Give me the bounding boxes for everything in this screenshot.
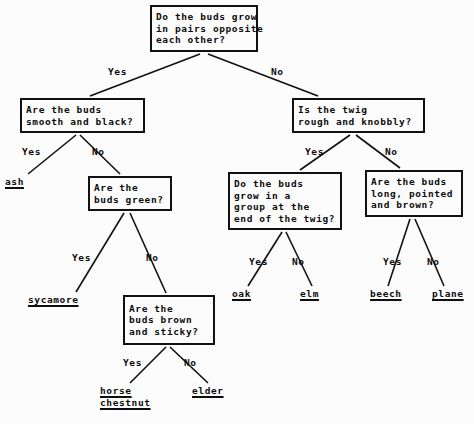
leaf_elm[interactable]: elm xyxy=(300,288,319,300)
lbl_smooth_no: No xyxy=(92,146,105,157)
node-q_group_end[interactable]: Do the budsgrow in agroup at theend of t… xyxy=(228,172,342,230)
lbl_group_yes: Yes xyxy=(249,256,268,267)
leaf_ash[interactable]: ash xyxy=(5,176,24,188)
node-q_buds_green[interactable]: Are thebuds green? xyxy=(88,176,172,211)
node-text-line: long, pointed xyxy=(371,188,457,200)
lbl_root_yes: Yes xyxy=(108,66,127,77)
node-text-line: each other? xyxy=(156,34,252,46)
leaf_oak[interactable]: oak xyxy=(232,288,251,300)
node-root[interactable]: Do the buds growin pairs oppositeeach ot… xyxy=(150,5,258,52)
lbl_green_yes: Yes xyxy=(72,252,91,263)
node-text-line: group at the xyxy=(234,201,336,213)
lbl_sticky_yes: Yes xyxy=(123,357,142,368)
node-q_smooth_black[interactable]: Are the budssmooth and black? xyxy=(20,98,145,133)
leaf-text-line: sycamore xyxy=(28,294,79,306)
node-q_brown_sticky[interactable]: Are thebuds brownand sticky? xyxy=(123,295,215,345)
lbl_sticky_no: No xyxy=(184,357,197,368)
edge-long-yes xyxy=(388,219,410,286)
leaf_elder[interactable]: elder xyxy=(192,385,224,397)
leaf-text-line: ash xyxy=(5,176,24,188)
node-text-line: end of the twig? xyxy=(234,213,336,225)
node-text-line: Do the buds grow xyxy=(156,11,252,23)
node-text-line: Are the buds xyxy=(26,104,139,116)
node-text-line: smooth and black? xyxy=(26,116,139,128)
leaf-text-line: horse xyxy=(100,385,151,397)
node-text-line: and brown? xyxy=(371,199,457,211)
node-text-line: Do the buds xyxy=(234,178,336,190)
node-text-line: Are the xyxy=(94,182,166,194)
lbl_twig_yes: Yes xyxy=(305,146,324,157)
leaf-text-line: chestnut xyxy=(100,397,151,409)
node-text-line: buds brown xyxy=(129,314,209,326)
leaf-text-line: oak xyxy=(232,288,251,300)
lbl_twig_no: No xyxy=(385,146,398,157)
node-text-line: and sticky? xyxy=(129,326,209,338)
leaf-text-line: plane xyxy=(432,288,464,300)
lbl_group_no: No xyxy=(292,256,305,267)
leaf-text-line: elder xyxy=(192,385,224,397)
edge-root-yes xyxy=(90,54,200,96)
node-q_twig_rough[interactable]: Is the twigrough and knobbly? xyxy=(292,98,425,133)
node-text-line: rough and knobbly? xyxy=(298,116,419,128)
leaf-text-line: elm xyxy=(300,288,319,300)
node-text-line: Are the xyxy=(129,303,209,315)
lbl_green_no: No xyxy=(146,252,159,263)
node-q_long_pointed[interactable]: Are the budslong, pointedand brown? xyxy=(365,170,463,217)
lbl_root_no: No xyxy=(271,66,284,77)
leaf_plane[interactable]: plane xyxy=(432,288,464,300)
lbl_long_yes: Yes xyxy=(383,256,402,267)
lbl_long_no: No xyxy=(427,256,440,267)
node-text-line: Is the twig xyxy=(298,104,419,116)
leaf_horse_chestnut[interactable]: horsechestnut xyxy=(100,385,151,408)
node-text-line: Are the buds xyxy=(371,176,457,188)
edge-root-no xyxy=(208,54,318,96)
leaf-text-line: beech xyxy=(370,288,402,300)
lbl_smooth_yes: Yes xyxy=(22,146,41,157)
leaf_beech[interactable]: beech xyxy=(370,288,402,300)
decision-tree-diagram: Do the buds growin pairs oppositeeach ot… xyxy=(0,0,474,424)
node-text-line: buds green? xyxy=(94,194,166,206)
node-text-line: in pairs opposite xyxy=(156,23,252,35)
node-text-line: grow in a xyxy=(234,190,336,202)
edge-long-no xyxy=(415,219,444,286)
leaf_sycamore[interactable]: sycamore xyxy=(28,294,79,306)
